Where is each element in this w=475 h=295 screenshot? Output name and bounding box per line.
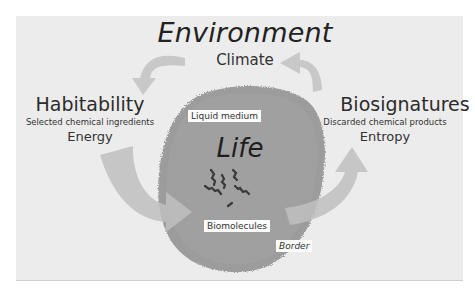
biosignatures-title: Biosignatures — [335, 93, 475, 115]
biosignatures-subtitle: Discarded chemical products — [300, 117, 470, 127]
arrow-environment-to-habitability — [132, 56, 185, 95]
habitability-detail: Energy — [40, 129, 140, 144]
environment-climate: Climate — [190, 51, 300, 69]
life-title: Life — [210, 133, 270, 163]
environment-title: Environment — [150, 17, 340, 48]
habitability-title: Habitability — [10, 93, 170, 115]
biomolecules-label: Biomolecules — [204, 220, 270, 232]
biosignatures-detail: Entropy — [335, 129, 435, 144]
habitability-subtitle: Selected chemical ingredients — [5, 117, 175, 127]
border-label: Border — [276, 240, 312, 252]
liquid-medium-label: Liquid medium — [188, 110, 261, 122]
